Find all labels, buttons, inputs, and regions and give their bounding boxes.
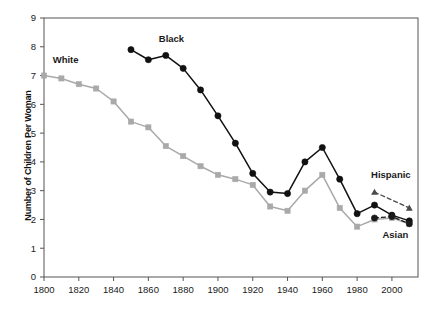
data-point-white-1920 [250, 182, 255, 187]
series-line-hispanic [375, 192, 410, 208]
data-point-black-1930 [267, 189, 273, 195]
data-point-white-1850 [128, 119, 133, 124]
data-point-white-1890 [198, 164, 203, 169]
series-label-hispanic: Hispanic [371, 169, 411, 180]
series-white [41, 73, 412, 229]
x-axis-tick-label: 1920 [242, 284, 263, 295]
series-line-white [44, 76, 409, 227]
x-axis-tick-label: 1980 [347, 284, 368, 295]
data-point-white-1810 [59, 76, 64, 81]
x-axis-tick-label: 1940 [277, 284, 298, 295]
data-point-black-1900 [215, 113, 221, 119]
data-point-hispanic-1990 [371, 189, 378, 195]
data-point-black-1990 [371, 202, 377, 208]
data-point-asian-2000 [389, 213, 395, 219]
data-point-white-1900 [215, 172, 220, 177]
data-point-black-1880 [180, 65, 186, 71]
data-point-white-1840 [111, 99, 116, 104]
data-point-black-1980 [354, 211, 360, 217]
data-point-white-1870 [163, 143, 168, 148]
data-point-white-1950 [302, 188, 307, 193]
data-point-asian-1990 [371, 215, 377, 221]
y-axis-title: Number of Children Per Woman [19, 0, 37, 311]
x-axis-tick-label: 2000 [381, 284, 402, 295]
data-point-black-1910 [232, 140, 238, 146]
data-point-black-1860 [145, 57, 151, 63]
x-axis-tick-label: 1880 [173, 284, 194, 295]
plot-frame [44, 18, 418, 277]
x-axis-tick-label: 1820 [68, 284, 89, 295]
data-point-white-1820 [76, 82, 81, 87]
data-point-black-1970 [337, 176, 343, 182]
data-point-white-1860 [146, 125, 151, 130]
data-point-white-1960 [320, 172, 325, 177]
series-black [128, 47, 413, 224]
data-point-white-1930 [268, 204, 273, 209]
data-point-white-1980 [355, 224, 360, 229]
x-axis-tick-label: 1900 [207, 284, 228, 295]
x-axis-tick-label: 1840 [103, 284, 124, 295]
x-axis-tick-label: 1860 [138, 284, 159, 295]
data-point-hispanic-2010 [406, 205, 413, 211]
data-point-white-1910 [233, 177, 238, 182]
series-label-asian: Asian [382, 229, 408, 240]
data-point-black-1870 [163, 52, 169, 58]
data-point-white-1830 [94, 86, 99, 91]
data-point-black-1940 [284, 190, 290, 196]
data-point-white-1800 [41, 73, 46, 78]
chart-container: 0123456789180018201840186018801900192019… [0, 0, 427, 311]
data-point-black-1960 [319, 144, 325, 150]
data-point-black-1920 [250, 170, 256, 176]
data-point-white-1970 [337, 205, 342, 210]
data-point-black-1890 [197, 87, 203, 93]
series-label-black: Black [159, 33, 185, 44]
data-point-asian-2010 [406, 221, 412, 227]
fertility-rate-line-chart: 0123456789180018201840186018801900192019… [0, 0, 427, 311]
data-point-white-1880 [181, 154, 186, 159]
series-label-white: White [53, 54, 79, 65]
data-point-black-1950 [302, 159, 308, 165]
x-axis-tick-label: 1960 [312, 284, 333, 295]
data-point-white-1940 [285, 208, 290, 213]
data-point-black-1850 [128, 47, 134, 53]
